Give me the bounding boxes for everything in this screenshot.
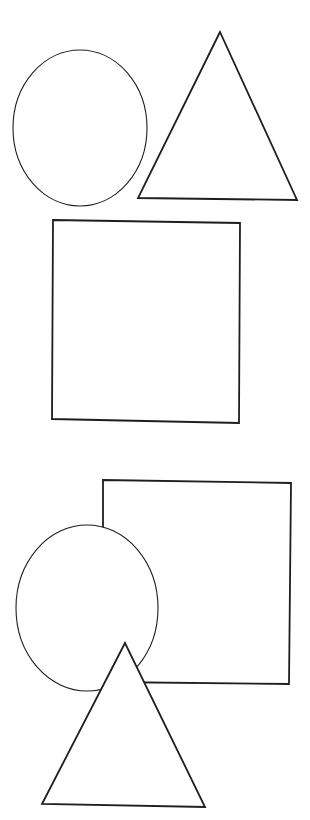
- shapes-canvas: [0, 0, 310, 820]
- square-shape: [52, 220, 240, 423]
- triangle-shape: [138, 32, 297, 200]
- separate-shapes-group: [13, 32, 297, 423]
- overlapping-shapes-group: [16, 480, 291, 807]
- oval-shape: [13, 50, 147, 206]
